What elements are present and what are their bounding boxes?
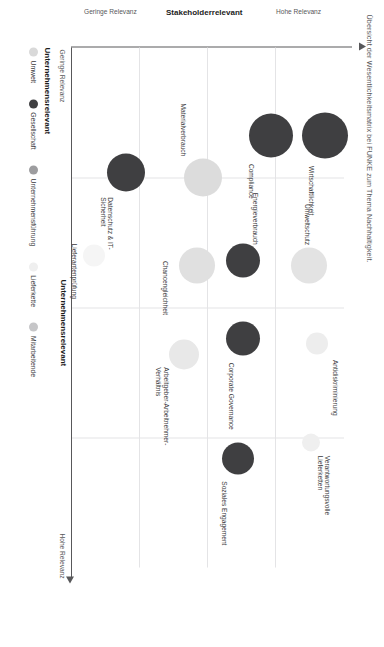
- bubble-label: Corporate Governance: [228, 362, 236, 429]
- bubble-point[interactable]: [169, 339, 199, 369]
- bubble-label: Soziales Engagement: [220, 481, 228, 545]
- x-axis-arrow-icon: [67, 576, 75, 583]
- legend: Unternehmensrelevant UmweltGesellschaftU…: [29, 47, 52, 517]
- legend-item[interactable]: Umwelt: [29, 47, 38, 83]
- legend-item-label: Mitarbeitende: [30, 335, 37, 376]
- y-axis-low-label: Geringe Relevanz: [84, 7, 137, 14]
- y-axis-title: Stakeholderrelevant: [166, 7, 242, 16]
- legend-item[interactable]: Mitarbeitende: [29, 322, 38, 376]
- legend-item-list: UmweltGesellschaftUnternehmensführungLie…: [29, 47, 38, 517]
- legend-item[interactable]: Gesellschaft: [29, 99, 38, 149]
- materiality-matrix-figure: Übersicht der Wesentlichkeitsmatrix bei …: [0, 0, 384, 647]
- legend-title: Unternehmensrelevant: [43, 47, 52, 517]
- bubble-label: Lieferantenprüfung: [70, 243, 78, 298]
- legend-dot-icon: [29, 47, 38, 56]
- gridline-horizontal: [207, 47, 208, 567]
- legend-item-label: Lieferkette: [30, 275, 37, 307]
- gridline-horizontal: [139, 47, 140, 567]
- y-axis-line: [71, 46, 352, 47]
- y-axis-high-label: Hohe Relevanz: [276, 7, 321, 14]
- bubble-label: Umweltschutz: [303, 203, 311, 244]
- x-axis-low-label: Geringe Relevanz: [59, 49, 66, 102]
- bubble-point[interactable]: [222, 442, 254, 474]
- bubble-point[interactable]: [302, 433, 320, 451]
- bubble-point[interactable]: [249, 113, 293, 157]
- legend-item[interactable]: Unternehmensführung: [29, 165, 38, 246]
- bubble-label: Arbeitgeber-Arbeitnehmer- Verhältnis: [154, 367, 170, 445]
- bubble-label: Datenschutz & IT- Sicherheit: [99, 197, 115, 249]
- legend-dot-icon: [29, 262, 38, 271]
- x-axis-title: Unternehmensrelevant: [59, 279, 68, 366]
- bubble-point[interactable]: [107, 153, 145, 191]
- bubble-point[interactable]: [226, 243, 260, 277]
- rotated-figure-stage: Übersicht der Wesentlichkeitsmatrix bei …: [0, 0, 384, 647]
- bubble-point[interactable]: [83, 244, 105, 266]
- x-axis-high-label: Hohe Relevanz: [59, 533, 66, 578]
- legend-item-label: Gesellschaft: [30, 112, 37, 149]
- bubble-label: Materialverbrauch: [179, 103, 187, 156]
- bubble-point[interactable]: [291, 247, 327, 283]
- legend-item-label: Umwelt: [30, 60, 37, 83]
- bubble-label: Antidiskriminierung: [331, 359, 339, 415]
- bubble-point[interactable]: [184, 158, 222, 196]
- legend-item-label: Unternehmensführung: [30, 178, 37, 246]
- legend-dot-icon: [29, 99, 38, 108]
- page-title: Übersicht der Wesentlichkeitsmatrix bei …: [365, 14, 374, 262]
- bubble-label: Chancengleichheit: [161, 260, 169, 314]
- y-axis-arrow-icon: [359, 42, 366, 50]
- gridline-vertical: [72, 307, 344, 308]
- legend-dot-icon: [29, 322, 38, 331]
- bubble-point[interactable]: [179, 247, 215, 283]
- bubble-label: Verantwortungsvolle Lieferketten: [316, 455, 332, 514]
- bubble-point[interactable]: [226, 321, 260, 355]
- bubble-label: Energieverbrauch: [252, 192, 260, 244]
- legend-item[interactable]: Lieferkette: [29, 262, 38, 307]
- x-axis-line: [71, 47, 72, 577]
- bubble-point[interactable]: [306, 332, 328, 354]
- plot-area: Geringe Relevanz Unternehmensrelevant Ho…: [72, 47, 344, 567]
- legend-dot-icon: [29, 165, 38, 174]
- bubble-point[interactable]: [302, 112, 348, 158]
